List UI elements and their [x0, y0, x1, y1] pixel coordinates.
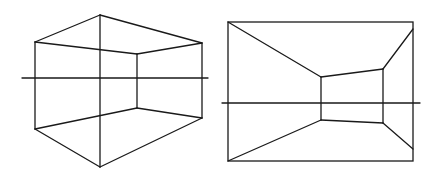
edge-line [321, 69, 383, 77]
perspective-diagram [0, 0, 435, 176]
edge-line [35, 129, 100, 167]
two-point-perspective-figure [22, 15, 208, 167]
edge-line [228, 120, 321, 161]
edge-line [100, 15, 202, 43]
edge-line [35, 108, 137, 129]
edge-line [383, 123, 413, 149]
one-point-perspective-figure [222, 22, 420, 161]
edge-line [383, 29, 413, 69]
edge-line [228, 22, 321, 77]
edge-line [321, 120, 383, 123]
edge-line [35, 42, 137, 54]
edge-line [137, 43, 202, 54]
edge-line [35, 15, 100, 42]
edge-line [100, 118, 202, 167]
edge-line [137, 108, 202, 118]
